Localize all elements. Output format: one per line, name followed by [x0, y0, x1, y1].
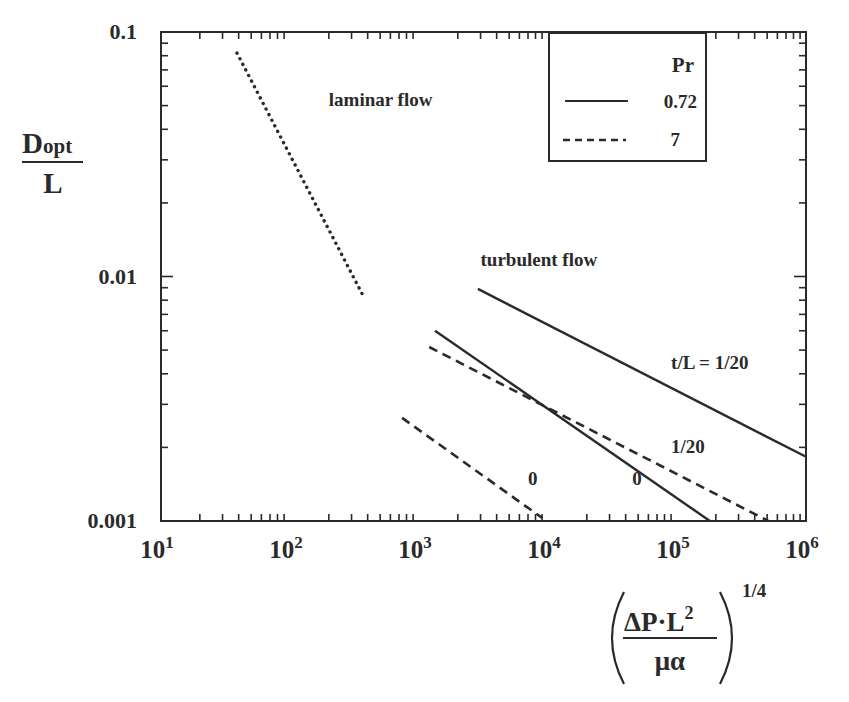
svg-text:Dopt: Dopt: [22, 127, 72, 159]
annotation-1: turbulent flow: [481, 249, 598, 270]
x-tick-labels: 101102103104105106: [140, 533, 819, 563]
annotation-4: 0: [528, 468, 538, 489]
series-line-4: [402, 418, 542, 518]
annotation-0: laminar flow: [329, 89, 433, 110]
x-tick-label-3: 104: [527, 533, 561, 563]
x-tick-label-5: 106: [785, 533, 819, 563]
legend-label-0: 0.72: [664, 91, 697, 112]
x-tick-label-0: 101: [140, 533, 174, 563]
x-tick-label-2: 103: [398, 533, 432, 563]
data-series: [237, 53, 806, 521]
svg-text:μα: μα: [655, 646, 685, 676]
x-tick-label-1: 102: [269, 533, 303, 563]
y-tick-labels: 0.10.010.001: [88, 19, 138, 533]
x-axis-label: ΔP·L2 μα 1/4: [612, 580, 767, 684]
y-tick-label-1: 0.01: [99, 264, 138, 289]
svg-text:ΔP·L2: ΔP·L2: [624, 603, 693, 637]
y-axis-label: Dopt L: [22, 127, 83, 199]
annotation-2: t/L = 1/20: [671, 352, 748, 373]
svg-text:1/4: 1/4: [742, 580, 767, 601]
legend-title: Pr: [672, 53, 694, 77]
legend: Pr 0.72 7: [549, 33, 706, 161]
legend-label-1: 7: [671, 129, 681, 150]
x-tick-label-4: 105: [656, 533, 690, 563]
axis-ticks: [161, 32, 806, 521]
series-line-2: [435, 331, 710, 521]
y-tick-label-2: 0.001: [88, 508, 138, 533]
annotation-5: 0: [632, 468, 642, 489]
chart: 101102103104105106 0.10.010.001 laminar …: [0, 0, 849, 702]
annotation-3: 1/20: [671, 436, 705, 457]
plot-frame: [161, 32, 806, 521]
y-tick-label-0: 0.1: [110, 19, 138, 44]
series-line-3: [429, 347, 768, 521]
series-line-1: [478, 289, 806, 457]
svg-text:L: L: [43, 167, 62, 199]
